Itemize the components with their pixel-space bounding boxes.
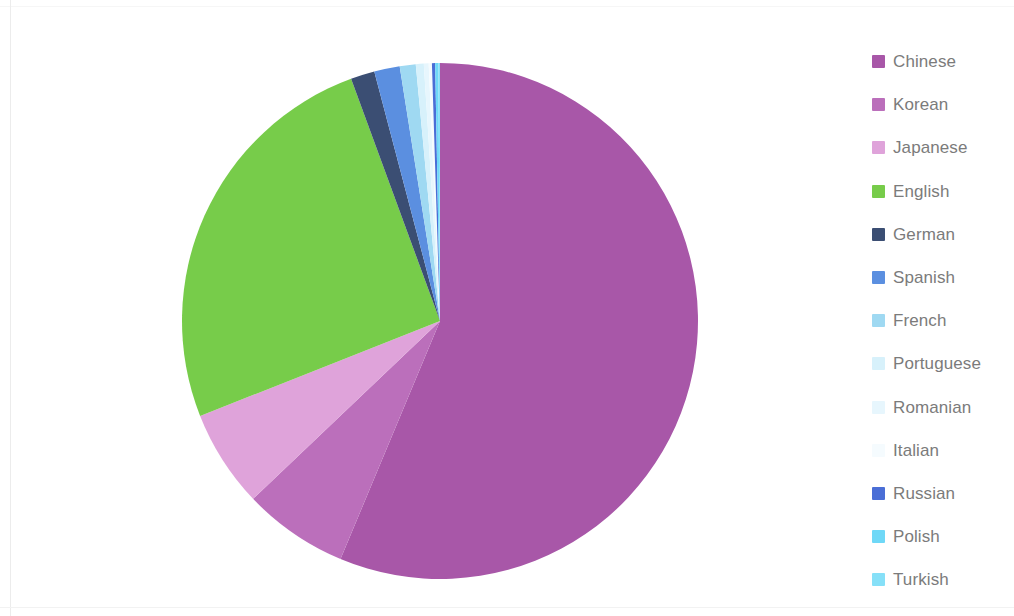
legend-swatch-icon [872,444,885,457]
legend-swatch-icon [872,401,885,414]
legend-item-label: Japanese [893,139,968,156]
scan-artifact-bottom-rule [0,607,1014,608]
scan-artifact-left-rule [10,0,11,616]
legend-swatch-icon [872,530,885,543]
legend-item[interactable]: French [872,299,1014,342]
legend-item[interactable]: Spanish [872,256,1014,299]
legend-item-label: Chinese [893,53,956,70]
legend-item-label: Italian [893,442,939,459]
legend: ChineseKoreanJapaneseEnglishGermanSpanis… [872,40,1014,601]
legend-swatch-icon [872,314,885,327]
legend-swatch-icon [872,141,885,154]
scan-artifact-top-rule [0,6,1014,7]
pie-plot-area [182,62,698,582]
legend-item-label: French [893,312,947,329]
legend-item-label: German [893,226,955,243]
pie-slice-group [182,63,698,579]
legend-item-label: Turkish [893,571,949,588]
legend-item-label: Korean [893,96,948,113]
legend-item[interactable]: Turkish [872,558,1014,601]
legend-item[interactable]: Polish [872,515,1014,558]
legend-swatch-icon [872,487,885,500]
legend-item[interactable]: Japanese [872,126,1014,169]
legend-item[interactable]: Italian [872,429,1014,472]
legend-item-label: Russian [893,485,955,502]
legend-item-label: Polish [893,528,940,545]
pie-svg [182,62,698,582]
legend-item-label: Romanian [893,399,971,416]
legend-swatch-icon [872,271,885,284]
legend-swatch-icon [872,228,885,241]
legend-item[interactable]: Portuguese [872,342,1014,385]
legend-swatch-icon [872,185,885,198]
legend-swatch-icon [872,357,885,370]
legend-item-label: Spanish [893,269,955,286]
legend-item[interactable]: Romanian [872,386,1014,429]
legend-swatch-icon [872,55,885,68]
legend-item[interactable]: Chinese [872,40,1014,83]
legend-item-label: English [893,183,949,200]
legend-swatch-icon [872,98,885,111]
legend-item[interactable]: Russian [872,472,1014,515]
legend-item-label: Portuguese [893,355,981,372]
legend-item[interactable]: German [872,213,1014,256]
pie-chart-figure: ChineseKoreanJapaneseEnglishGermanSpanis… [0,0,1014,616]
legend-item[interactable]: Korean [872,83,1014,126]
legend-item[interactable]: English [872,170,1014,213]
legend-swatch-icon [872,573,885,586]
